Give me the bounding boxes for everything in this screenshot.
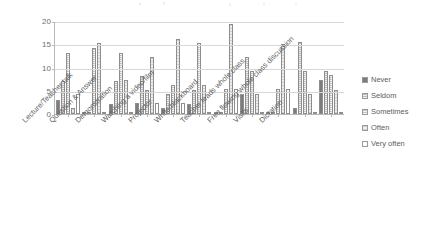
bar [109,104,113,114]
chart-legend: NeverSeldomSometimesOftenVery often [362,76,409,148]
bar [135,103,139,114]
bar [187,104,191,114]
bar [329,75,333,114]
bar [82,112,86,114]
y-axis-tick-mark [52,69,55,70]
bar [298,42,302,114]
legend-label: Often [371,124,389,132]
legend-item-very-often[interactable]: Very often [362,140,409,148]
bar [224,89,228,114]
legend-label: Seldom [371,92,396,100]
bar [150,57,154,114]
bar [197,43,201,114]
bar [92,48,96,114]
gridline [55,92,344,93]
bar [124,80,128,114]
bar [245,57,249,114]
bar [202,85,206,114]
legend-label: Very often [371,140,405,148]
bar [334,90,338,114]
bar [71,108,75,115]
chart-figure: 05101520 Lecture/Teacher talkQuestion & … [0,0,429,226]
bar [308,94,312,114]
bar [260,112,264,114]
y-axis-tick-label: 10 [42,65,51,73]
bar [102,112,106,114]
legend-item-seldom[interactable]: Seldom [362,92,409,100]
bar [214,112,218,114]
bar [155,103,159,114]
y-axis-tick-mark [52,45,55,46]
bar [281,44,285,114]
legend-label: Never [371,76,391,84]
legend-swatch [362,141,368,147]
bar [119,53,123,114]
bar [171,85,175,114]
y-axis-tick-mark [52,22,55,23]
bar [61,81,65,114]
bar [207,112,211,114]
bar [181,103,185,114]
bar [140,76,144,114]
plot-area: 05101520 [54,22,344,115]
bar [161,108,165,114]
bar [76,94,80,114]
bar [87,112,91,114]
y-axis-tick-label: 15 [42,41,51,49]
legend-item-sometimes[interactable]: Sometimes [362,108,409,116]
legend-swatch [362,109,368,115]
bar [66,53,70,114]
bar [255,94,259,114]
bar [192,90,196,114]
y-axis-tick-mark [52,92,55,93]
bar [286,89,290,114]
y-axis-tick-label: 20 [42,18,51,26]
legend-swatch [362,93,368,99]
gridline [55,45,344,46]
bar [339,112,343,114]
legend-item-never[interactable]: Never [362,76,409,84]
bar [319,80,323,114]
bar [176,39,180,114]
bar [166,94,170,114]
bar [219,112,223,114]
bar [293,108,297,115]
y-axis-tick-mark [52,115,55,116]
bar [97,43,101,114]
legend-swatch [362,77,368,83]
y-axis-tick-label: 5 [47,88,51,96]
bar [145,90,149,114]
bar [240,94,244,114]
bar [266,112,270,114]
bar [56,100,60,114]
bar [129,112,133,114]
gridline [55,69,344,70]
bar [271,112,275,114]
y-axis-tick-label: 0 [47,111,51,119]
gridline [55,22,344,23]
legend-swatch [362,125,368,131]
bar [276,89,280,114]
legend-label: Sometimes [371,108,409,116]
legend-item-often[interactable]: Often [362,124,409,132]
bar [313,112,317,114]
bar [114,81,118,114]
